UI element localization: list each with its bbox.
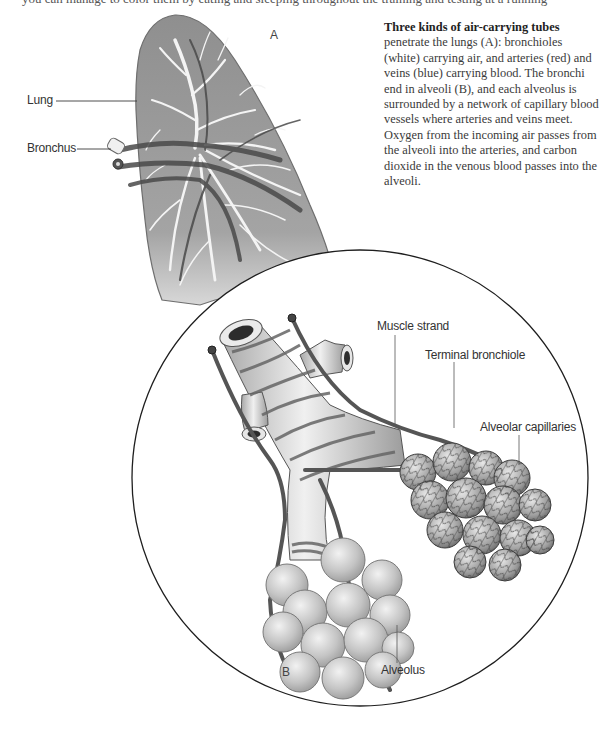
label-alveolus: Alveolus <box>381 663 425 677</box>
label-bronchus: Bronchus <box>27 141 76 155</box>
panel-label-a: A <box>270 28 278 42</box>
panel-label-b: B <box>282 665 290 679</box>
caption-lead: Three kinds of air-carrying tubes <box>384 20 560 34</box>
label-terminal-bronchiole: Terminal bronchiole <box>425 348 525 362</box>
caption-body: penetrate the lungs (A): bronchioles (wh… <box>384 35 599 188</box>
figure-caption: Three kinds of air-carrying tubes penetr… <box>384 20 599 189</box>
bronchus-stub <box>106 137 126 169</box>
label-lung: Lung <box>27 93 53 107</box>
label-alveolar-capillaries: Alveolar capillaries <box>480 420 576 434</box>
label-muscle-strand: Muscle strand <box>377 319 449 333</box>
